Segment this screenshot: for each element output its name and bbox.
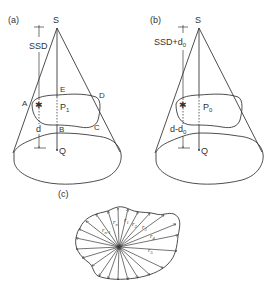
point-label-a: P1 [60,102,70,113]
source-label-b: S [195,15,201,25]
point-q-label-b: Q [201,146,208,156]
radius-arrow [76,238,119,247]
depth-label-b: d-d0 [170,124,187,135]
panel-b-label: (b) [150,15,161,25]
radius-arrow [119,224,176,247]
ssd-label-b: SSD+d0 [154,37,187,48]
beam-cross-section-b [156,133,263,184]
panel-a: (a) S SSD ✱ P1 d A E D C B Q [8,15,121,184]
radius-arrow [108,247,119,279]
panel-c: (c) [58,189,180,280]
corner-label-E: E [60,85,65,94]
point-label-b: P0 [203,102,213,113]
diagram-canvas: (a) S SSD ✱ P1 d A E D C B Q [0,0,265,286]
panel-a-label: (a) [8,15,19,25]
point-q-dot-a [56,149,58,151]
point-q-label-a: Q [59,146,66,156]
body-outline-c [76,207,180,280]
ssd-label-a: SSD [29,41,48,51]
radius-label-n: rn [113,218,119,227]
corner-label-D: D [99,91,105,100]
panel-c-label: (c) [58,189,69,199]
beam-cross-section-a [14,133,121,184]
radius-label-5: r5 [148,246,154,255]
radius-arrow [118,208,119,247]
point-q-dot-b [198,149,200,151]
corner-label-C: C [94,123,100,132]
radius-arrow [118,247,119,280]
corner-label-A: A [22,99,28,108]
depth-label-a: d [36,124,41,134]
source-label-a: S [53,15,59,25]
radius-label-2: r2 [132,220,138,229]
radius-arrow [119,247,150,275]
radius-arrow [92,247,119,266]
panel-b: (b) S SSD+d0 ✱ P0 d-d0 Q [150,15,263,184]
radius-arrow [99,247,119,276]
radius-arrow [119,247,128,280]
radius-label-n-minus-1: rn-1 [102,226,111,235]
